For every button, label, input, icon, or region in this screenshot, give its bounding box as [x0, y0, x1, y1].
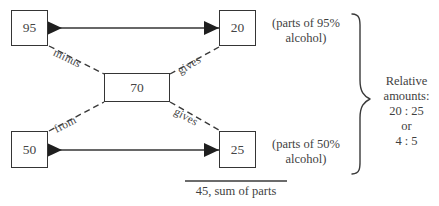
node-parts-weak-value: 25: [231, 142, 245, 158]
note-parts-of-50: (parts of 50% alcohol): [262, 137, 350, 166]
curly-brace-icon: [352, 14, 370, 174]
arrow-50-to-25-head: [204, 143, 219, 157]
alligation-diagram: 95 20 70 50 25 minus gives from gives (p…: [0, 0, 439, 206]
arrow-50-to-25-tail-head: [47, 143, 62, 157]
relative-amounts-ratio: 20 : 25: [374, 104, 439, 119]
arrow-95-to-20: [47, 21, 240, 35]
arrow-95-to-20-head: [204, 21, 219, 35]
arrow-95-to-20-tail-head: [47, 21, 62, 35]
node-target-concentration-value: 70: [130, 80, 144, 96]
node-parts-strong: 20: [219, 10, 256, 46]
node-strong-concentration-value: 95: [23, 20, 37, 36]
note-parts-of-50-line1: (parts of 50%: [262, 137, 350, 152]
node-target-concentration: 70: [104, 73, 170, 102]
note-parts-of-95: (parts of 95% alcohol): [262, 16, 350, 45]
node-strong-concentration: 95: [11, 10, 48, 46]
note-parts-of-50-line2: alcohol): [262, 152, 350, 167]
note-parts-of-95-line2: alcohol): [262, 31, 350, 46]
node-weak-concentration: 50: [11, 131, 48, 168]
relative-amounts-line2: amounts:: [374, 89, 439, 104]
relative-amounts-or: or: [374, 119, 439, 134]
node-parts-strong-value: 20: [231, 20, 245, 36]
sum-of-parts-note: 45, sum of parts: [180, 184, 292, 199]
node-parts-weak: 25: [219, 131, 256, 168]
relative-amounts-block: Relative amounts: 20 : 25 or 4 : 5: [374, 74, 439, 149]
relative-amounts-line1: Relative: [374, 74, 439, 89]
arrow-50-to-25: [47, 143, 240, 157]
node-weak-concentration-value: 50: [23, 142, 37, 158]
note-parts-of-95-line1: (parts of 95%: [262, 16, 350, 31]
relative-amounts-reduced-ratio: 4 : 5: [374, 134, 439, 149]
